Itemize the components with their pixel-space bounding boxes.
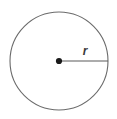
figure-canvas: r (0, 0, 117, 119)
circle-radius-figure: r (0, 0, 117, 119)
center-point-dot (56, 58, 62, 64)
radius-label: r (83, 44, 89, 58)
